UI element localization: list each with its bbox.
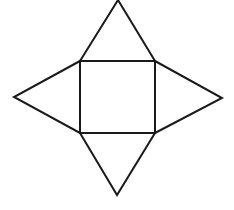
triangle-bottom [80,133,155,195]
pyramid-net-diagram [0,0,234,210]
triangle-right [155,61,222,133]
triangle-top [80,0,155,61]
triangle-left [14,61,80,133]
square-base [80,61,155,133]
